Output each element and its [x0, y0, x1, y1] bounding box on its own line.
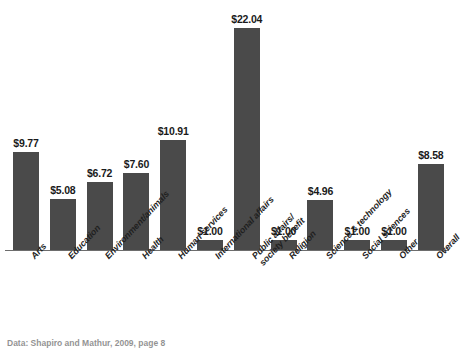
bar-value-label: $6.72 [87, 167, 112, 179]
bar-value-label: $5.08 [50, 184, 75, 196]
bar-value-label: $9.77 [13, 137, 38, 149]
bar-value-label: $22.04 [231, 13, 262, 25]
bar [418, 164, 444, 250]
bar-value-label: $7.60 [124, 158, 149, 170]
bar [13, 152, 39, 250]
source-note: Data: Shapiro and Mathur, 2009, page 8 [7, 338, 165, 348]
bar-value-label: $8.58 [418, 149, 443, 161]
bar-value-label: $10.91 [158, 125, 189, 137]
bar [50, 199, 76, 250]
bar-value-label: $4.96 [308, 185, 333, 197]
